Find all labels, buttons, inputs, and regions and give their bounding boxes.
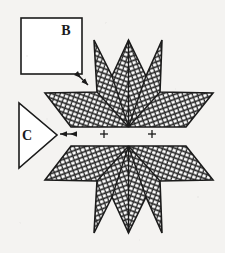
plus-mark-left xyxy=(100,130,108,138)
diagram-svg: B C xyxy=(0,0,225,253)
plus-mark-right xyxy=(148,130,156,138)
diagonal-arrow-line xyxy=(76,73,88,85)
square-outline xyxy=(21,18,82,74)
fiducial-marks xyxy=(100,130,156,138)
callout-square-b: B xyxy=(21,18,82,74)
triangle-label-c: C xyxy=(22,128,32,143)
figure-canvas: B C xyxy=(0,0,225,253)
diagonal-double-arrow xyxy=(76,73,88,85)
square-label-b: B xyxy=(61,23,70,38)
callout-triangle-c: C xyxy=(19,103,57,168)
